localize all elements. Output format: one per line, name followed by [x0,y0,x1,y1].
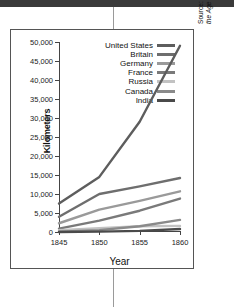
source-prefix: Source: [197,1,204,24]
y-tick-label: 0 [49,228,53,237]
x-tick-label: 1845 [51,238,68,247]
plot-area: 05,00010,00015,00020,00025,00030,00035,0… [59,42,180,232]
x-tick-label: 1860 [172,238,189,247]
x-axis-title: Year [59,256,180,267]
y-tick-label: 5,000 [34,209,53,218]
y-tick-label: 15,000 [30,171,53,180]
source-citation: Source: Daniel R. Headrick, The Tentacle… [197,0,214,24]
y-tick-label: 10,000 [30,190,53,199]
y-tick-label: 20,000 [30,152,53,161]
x-tick-mark [180,231,181,235]
x-tick-label: 1850 [91,238,108,247]
data-lines [59,42,180,232]
series-line [59,46,180,204]
series-line [59,199,180,229]
y-tick-label: 30,000 [30,114,53,123]
y-tick-label: 40,000 [30,76,53,85]
chart-figure: Kilometers United StatesBritainGermanyFr… [10,29,194,269]
y-tick-label: 35,000 [30,95,53,104]
series-line [59,178,180,217]
x-tick-label: 1855 [131,238,148,247]
y-tick-label: 25,000 [30,133,53,142]
y-tick-label: 50,000 [30,38,53,47]
page-canvas: Kilometers United StatesBritainGermanyFr… [0,0,234,307]
y-tick-label: 45,000 [30,57,53,66]
